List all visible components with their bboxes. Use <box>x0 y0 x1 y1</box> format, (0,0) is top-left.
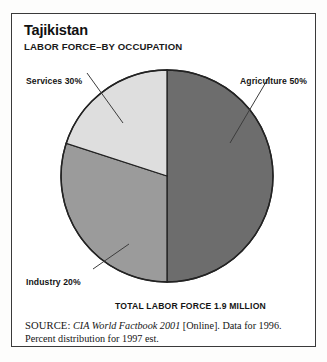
slice-label-services: Services 30% <box>26 76 82 86</box>
pie-slice-agriculture[interactable] <box>167 70 273 282</box>
figure-page: Tajikistan LABOR FORCE–BY OCCUPATION <box>0 0 327 362</box>
pie-chart: Services 30% Agriculture 50% Industry 20… <box>12 14 315 346</box>
source-label: SOURCE: <box>25 320 70 331</box>
total-labor-force-caption: TOTAL LABOR FORCE 1.9 MILLION <box>115 301 266 311</box>
slice-label-agriculture: Agriculture 50% <box>240 76 307 86</box>
figure-frame: Tajikistan LABOR FORCE–BY OCCUPATION <box>11 13 316 347</box>
source-publication: CIA World Factbook 2001 <box>73 320 180 331</box>
slice-label-industry: Industry 20% <box>26 277 81 287</box>
source-note: SOURCE: CIA World Factbook 2001 [Online]… <box>25 319 305 346</box>
